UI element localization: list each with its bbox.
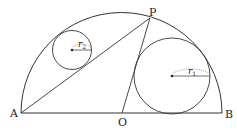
label-r1: r1 <box>188 66 196 77</box>
label-P: P <box>149 6 157 19</box>
chord-AP <box>21 18 150 113</box>
geometry-diagram: r2 r1 A B O P <box>0 0 237 140</box>
label-r2: r2 <box>78 39 86 50</box>
label-A: A <box>9 107 19 120</box>
label-O: O <box>118 116 127 129</box>
segment-OP <box>122 18 150 113</box>
label-B: B <box>225 108 233 121</box>
semicircle-arc <box>21 12 222 113</box>
